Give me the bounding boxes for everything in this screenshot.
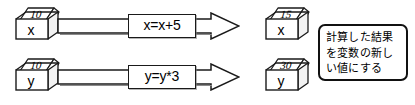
variable-value: 10 [24,8,47,20]
note-line-1: 計算した結果 [326,30,401,46]
variable-value: 10 [24,59,47,71]
variable-label: y [266,74,296,89]
note-line-3: い値にする [326,61,401,77]
variable-label: x [16,23,46,38]
variable-label: x [266,23,296,38]
variable-value: 15 [274,8,297,20]
variable-box-x-result: 15 x [262,6,314,46]
variable-value: 30 [274,59,297,71]
variable-label: y [16,74,46,89]
operation-expression-x: x=x+5 [128,14,196,38]
assignment-diagram: 10 x x=x+5 15 x 10 y [0,0,415,105]
note-line-2: を変数の新し [326,46,401,62]
explanation-note: 計算した結果 を変数の新し い値にする [318,24,408,81]
variable-box-y-result: 30 y [262,57,314,97]
operation-expression-y: y=y*3 [128,65,196,89]
